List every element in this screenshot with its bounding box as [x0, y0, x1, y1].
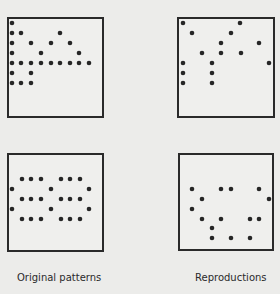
- dots-original-bottom: [10, 177, 92, 222]
- dot: [10, 31, 15, 36]
- dot: [200, 197, 205, 202]
- dot: [39, 61, 44, 66]
- dot: [219, 51, 224, 56]
- dot: [181, 81, 186, 86]
- dot: [39, 51, 44, 56]
- dot: [210, 71, 215, 76]
- dot: [257, 41, 262, 46]
- dot: [257, 217, 262, 222]
- dot: [78, 217, 83, 222]
- dots-reproduction-bottom: [190, 187, 272, 241]
- dot: [248, 217, 253, 222]
- dot: [210, 226, 215, 231]
- dot: [87, 187, 92, 192]
- dot: [210, 81, 215, 86]
- dot: [20, 177, 25, 182]
- dot: [10, 61, 15, 66]
- dot: [59, 217, 64, 222]
- dot: [68, 217, 73, 222]
- dot: [10, 41, 15, 46]
- dot: [267, 61, 272, 66]
- dot: [10, 21, 15, 26]
- dot: [29, 71, 34, 76]
- dot: [200, 217, 205, 222]
- dot: [29, 197, 34, 202]
- dot-patterns: [0, 0, 280, 294]
- dot: [219, 41, 224, 46]
- dot: [229, 31, 234, 36]
- dot: [210, 236, 215, 241]
- dot: [39, 177, 44, 182]
- dot: [29, 41, 34, 46]
- dot: [19, 81, 24, 86]
- label-original-patterns: Original patterns: [17, 272, 101, 283]
- dot: [77, 51, 82, 56]
- dot: [29, 177, 34, 182]
- dot: [181, 71, 186, 76]
- dot: [181, 61, 186, 66]
- dot: [190, 31, 195, 36]
- dot: [29, 81, 34, 86]
- dot: [190, 207, 195, 212]
- dot: [49, 41, 54, 46]
- dot: [200, 51, 205, 56]
- dot: [68, 41, 73, 46]
- dot: [49, 207, 54, 212]
- dot: [181, 21, 186, 26]
- dot: [78, 177, 83, 182]
- dots-original-top: [10, 21, 92, 86]
- dot: [10, 207, 15, 212]
- dots-reproduction-top: [181, 21, 272, 86]
- dot: [239, 51, 244, 56]
- dot: [219, 217, 224, 222]
- dot: [49, 187, 54, 192]
- dot: [219, 187, 224, 192]
- dot: [10, 51, 15, 56]
- dot: [68, 61, 73, 66]
- dot: [29, 61, 34, 66]
- dot: [58, 31, 63, 36]
- dot: [49, 61, 54, 66]
- dot: [39, 217, 44, 222]
- dot: [87, 207, 92, 212]
- dot: [19, 61, 24, 66]
- dot: [10, 81, 15, 86]
- dot: [190, 187, 195, 192]
- label-reproductions: Reproductions: [195, 272, 267, 283]
- dot: [257, 187, 262, 192]
- dot: [29, 217, 34, 222]
- dot: [210, 61, 215, 66]
- dot: [59, 177, 64, 182]
- dot: [229, 236, 234, 241]
- dot: [229, 187, 234, 192]
- dot: [10, 71, 15, 76]
- dot: [68, 177, 73, 182]
- dot: [20, 197, 25, 202]
- dot: [19, 31, 24, 36]
- dot: [58, 61, 63, 66]
- dot: [39, 197, 44, 202]
- dot: [87, 61, 92, 66]
- dot: [267, 197, 272, 202]
- dot: [78, 197, 83, 202]
- dot: [10, 187, 15, 192]
- dot: [68, 197, 73, 202]
- dot: [59, 197, 64, 202]
- dot: [77, 61, 82, 66]
- dot: [238, 21, 243, 26]
- dot: [20, 217, 25, 222]
- dot: [248, 236, 253, 241]
